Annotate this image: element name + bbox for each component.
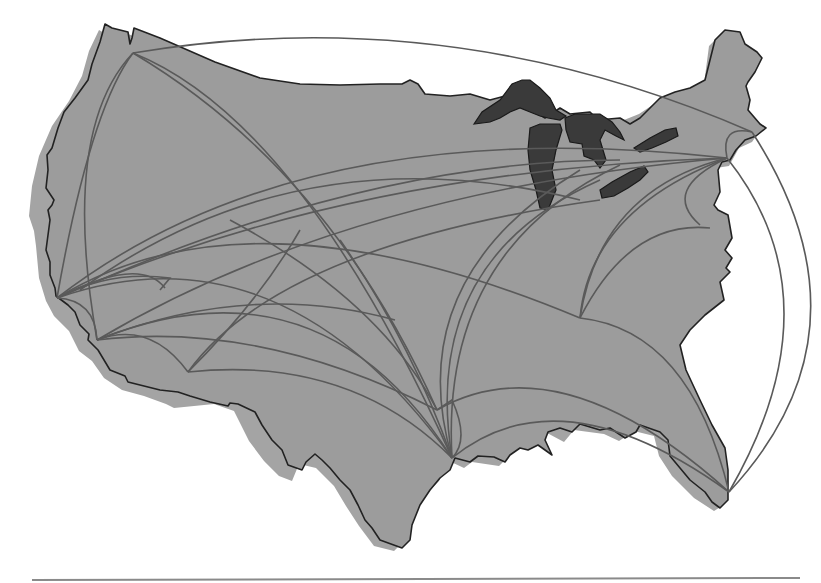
- us-route-map: [0, 0, 821, 583]
- footer-rule: [32, 578, 800, 580]
- us-landmass: [46, 24, 766, 548]
